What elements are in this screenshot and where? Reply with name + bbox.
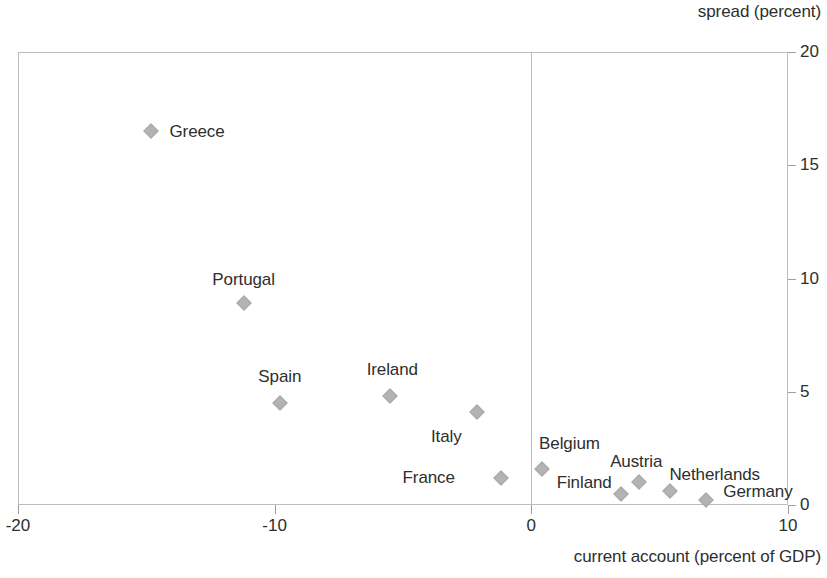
y-axis-tick-label: 10 xyxy=(800,270,819,287)
data-point-label: Portugal xyxy=(212,271,275,288)
y-axis-tick-label: 5 xyxy=(800,383,809,400)
x-axis-tick-label: -10 xyxy=(262,517,287,534)
data-point-label: Italy xyxy=(431,428,462,445)
scatter-chart-figure: spread (percent) current account (percen… xyxy=(0,0,827,578)
y-axis-title: spread (percent) xyxy=(698,2,821,22)
y-axis-tick-label: 15 xyxy=(800,156,819,173)
zero-vertical-line xyxy=(531,53,532,504)
y-axis-tick xyxy=(788,165,796,166)
data-point-label: Spain xyxy=(258,368,301,385)
data-point-label: Germany xyxy=(723,483,792,500)
y-axis-tick xyxy=(788,392,796,393)
x-axis-tick-label: 10 xyxy=(779,517,798,534)
data-point-label: Belgium xyxy=(539,435,600,452)
data-point-label: Finland xyxy=(557,474,612,491)
data-point-label: Austria xyxy=(610,453,662,470)
x-axis-tick-label: -20 xyxy=(6,517,31,534)
x-axis-title: current account (percent of GDP) xyxy=(574,547,821,567)
x-axis-tick xyxy=(18,505,19,514)
y-axis-tick-label: 0 xyxy=(800,496,809,513)
data-point-label: Greece xyxy=(169,123,224,140)
data-point-label: Ireland xyxy=(367,361,418,378)
plot-area xyxy=(18,52,788,505)
data-point-label: Netherlands xyxy=(669,466,760,483)
y-axis-tick xyxy=(788,505,796,506)
y-axis-tick xyxy=(788,52,796,53)
x-axis-tick xyxy=(788,505,789,514)
x-axis-tick xyxy=(531,505,532,514)
x-axis-tick-label: 0 xyxy=(527,517,536,534)
x-axis-tick xyxy=(275,505,276,514)
y-axis-tick-label: 20 xyxy=(800,43,819,60)
data-point-label: France xyxy=(403,469,455,486)
y-axis-tick xyxy=(788,279,796,280)
